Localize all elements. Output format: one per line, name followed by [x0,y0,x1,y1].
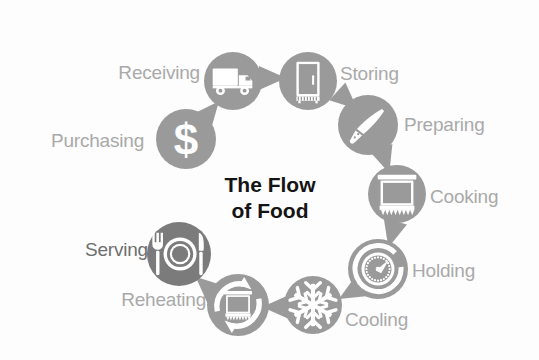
step-label-storing: Storing [340,64,399,83]
step-label-cooking: Cooking [430,187,498,206]
flow-step-preparing[interactable] [338,95,398,155]
flow-step-purchasing[interactable]: $ [156,109,216,169]
flow-of-food-diagram: $ PurchasingReceivingStoringPreparingCoo… [0,0,539,360]
svg-text:$: $ [174,115,198,164]
flow-step-reheating[interactable] [207,274,269,336]
step-label-holding: Holding [412,261,475,280]
flow-step-storing[interactable] [279,52,337,110]
flow-step-holding[interactable] [348,239,408,299]
step-label-purchasing: Purchasing [51,131,144,150]
refrigerator-icon [296,62,319,104]
flow-step-cooling[interactable] [284,276,342,334]
dollar-sign-icon: $ [174,115,198,164]
step-label-receiving: Receiving [118,63,200,82]
flow-step-serving[interactable] [147,222,211,286]
step-label-preparing: Preparing [404,115,485,134]
oven-icon [378,175,417,216]
flow-step-receiving[interactable] [204,52,262,110]
flow-step-cooking[interactable] [368,165,426,223]
step-label-reheating: Reheating [121,290,206,309]
step-label-serving: Serving [85,240,148,259]
step-label-cooling: Cooling [345,310,408,329]
diagram-center-title: The Flow of Food [225,172,316,223]
